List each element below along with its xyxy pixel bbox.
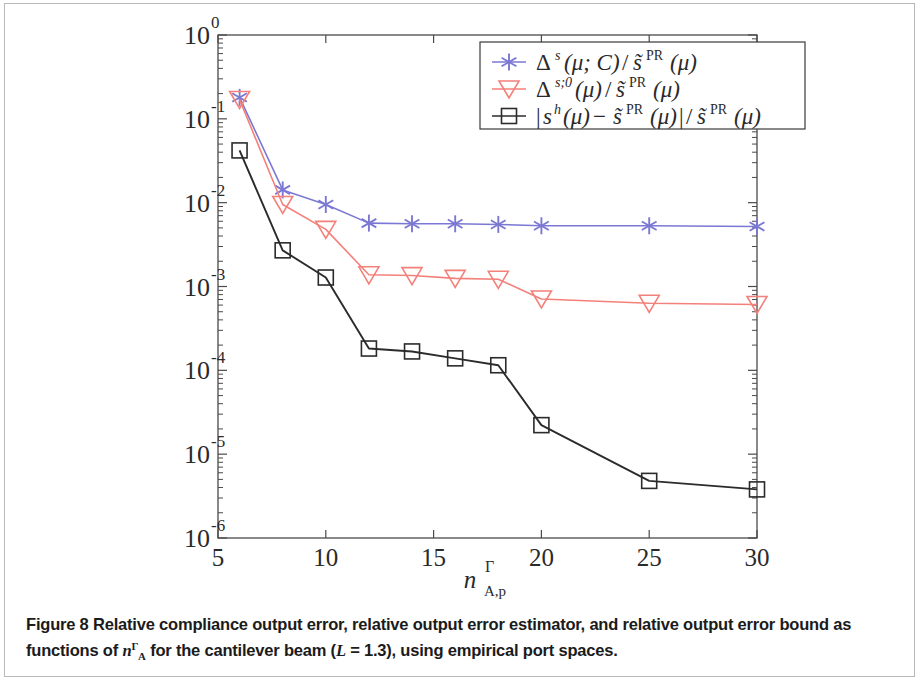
legend-slash: /: [622, 50, 629, 75]
y-tick-exponent: -4: [211, 348, 226, 367]
x-tick-label: 20: [529, 544, 554, 571]
y-tick-exponent: -2: [211, 181, 225, 200]
legend-minus: −: [593, 104, 606, 129]
x-axis-title: n Γ A,p: [464, 558, 506, 599]
y-tick-base: 10: [184, 105, 210, 134]
legend-stilde-sup: PR: [646, 48, 664, 63]
y-tick-label: 10-1: [184, 97, 225, 134]
legend-slash: /: [686, 104, 693, 129]
y-tick-base: 10: [184, 524, 210, 553]
marker-square: [232, 143, 247, 158]
legend-stilde2-args: (μ): [734, 104, 761, 129]
x-tick-label: 25: [637, 544, 662, 571]
caption-math-L: L: [336, 641, 346, 660]
x-tick-label: 10: [313, 544, 338, 571]
chart-legend: Δs(μ; C)/s̃PR(μ)Δs;0(μ)/s̃PR(μ)|sh(μ)−s̃…: [480, 42, 805, 129]
legend-sh-sup: h: [554, 102, 561, 117]
legend-delta-sup: s: [555, 48, 561, 63]
x-axis-title-subscript: A,p: [484, 583, 506, 599]
caption-math-n: nΓA: [122, 641, 145, 660]
y-tick-exponent: -3: [211, 265, 225, 284]
legend-bar-close: |: [679, 104, 684, 129]
y-tick-label: 100: [184, 13, 220, 50]
legend-stilde-args: (μ): [653, 77, 680, 102]
y-tick-label: 10-3: [184, 265, 225, 302]
legend-bar-open: |: [536, 104, 541, 129]
legend-stilde-args: (μ): [670, 50, 697, 75]
legend-sh-args: (μ): [563, 104, 590, 129]
caption-text-eq: = 1.3), using empirical port spaces.: [346, 641, 618, 659]
x-tick-label: 15: [421, 544, 446, 571]
legend-stilde-sup: PR: [629, 75, 647, 90]
chart-svg: 10-610-510-410-310-210-1100 51015202530 …: [0, 0, 921, 600]
legend-stilde-args: (μ): [650, 104, 677, 129]
legend-stilde-sup: PR: [626, 102, 644, 117]
legend-args: (μ): [575, 77, 602, 102]
legend-slash: /: [605, 77, 612, 102]
y-tick-base: 10: [184, 189, 210, 218]
legend-delta: Δ: [536, 50, 551, 75]
y-tick-base: 10: [184, 356, 210, 385]
x-tick-label: 30: [745, 544, 770, 571]
caption-text-2: for the cantilever beam (: [146, 641, 336, 659]
figure-caption: Figure 8 Relative compliance output erro…: [26, 612, 894, 664]
figure-container: 10-610-510-410-310-210-1100 51015202530 …: [0, 0, 921, 683]
x-tick-label: 5: [212, 544, 225, 571]
y-tick-label: 10-2: [184, 181, 225, 218]
legend-delta: Δ: [536, 77, 551, 102]
legend-sh: s: [543, 104, 552, 129]
chart-plot-area: 10-610-510-410-310-210-1100 51015202530 …: [0, 0, 921, 600]
y-tick-exponent: -1: [211, 97, 225, 116]
x-axis-title-n: n: [464, 566, 477, 593]
y-tick-exponent: -5: [211, 432, 225, 451]
caption-label: Figure 8: [26, 615, 89, 633]
legend-stilde2-sup: PR: [710, 102, 728, 117]
caption-math-sub: A: [138, 650, 146, 662]
y-tick-base: 10: [184, 440, 210, 469]
legend-args: (μ; C): [564, 50, 620, 75]
series-true-error: [232, 143, 764, 497]
y-tick-label: 10-4: [184, 348, 226, 385]
data-series-layer: [230, 89, 767, 497]
y-tick-label: 10-5: [184, 432, 225, 469]
y-tick-base: 10: [184, 21, 210, 50]
y-tick-base: 10: [184, 273, 210, 302]
legend-delta-sup: s;0: [555, 75, 572, 90]
y-tick-exponent: 0: [211, 13, 220, 32]
x-axis-title-superscript: Γ: [485, 558, 494, 575]
